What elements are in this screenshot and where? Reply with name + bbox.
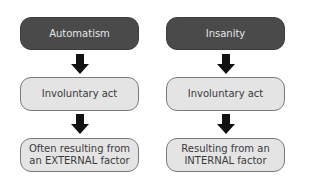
insanity-column: Insanity Involuntary act Resulting from …: [166, 0, 287, 181]
automatism-column: Automatism Involuntary act Often resulti…: [20, 0, 141, 181]
automatism-header-box: Automatism: [20, 17, 139, 50]
down-arrow-icon: [71, 54, 89, 74]
down-arrow-icon: [71, 114, 89, 134]
automatism-step-2-box: Often resulting from an EXTERNAL factor: [20, 138, 139, 172]
automatism-step-1: Involuntary act: [42, 88, 118, 100]
insanity-step-2-box: Resulting from an INTERNAL factor: [166, 138, 285, 172]
insanity-step-1-box: Involuntary act: [166, 77, 285, 111]
automatism-title: Automatism: [49, 28, 110, 40]
insanity-step-1: Involuntary act: [188, 88, 264, 100]
down-arrow-icon: [217, 114, 235, 134]
insanity-title: Insanity: [206, 28, 246, 40]
automatism-step-1-box: Involuntary act: [20, 77, 139, 111]
insanity-step-2: Resulting from an INTERNAL factor: [171, 143, 280, 167]
insanity-header-box: Insanity: [166, 17, 285, 50]
down-arrow-icon: [217, 54, 235, 74]
automatism-step-2: Often resulting from an EXTERNAL factor: [25, 143, 134, 167]
